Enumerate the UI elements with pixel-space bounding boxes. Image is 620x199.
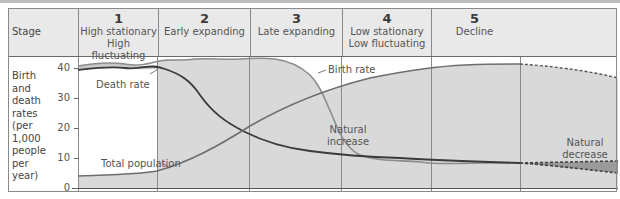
chart-frame	[8, 8, 617, 192]
